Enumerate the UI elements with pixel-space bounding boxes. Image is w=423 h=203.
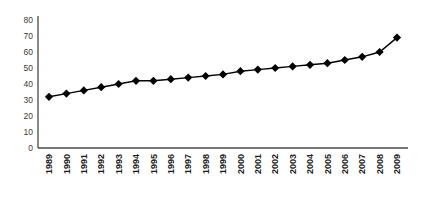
data-point-marker: [254, 66, 262, 74]
data-point-marker: [97, 83, 105, 91]
y-tick-label: 80: [24, 15, 34, 25]
series-markers: [45, 34, 401, 101]
x-tick-label: 2005: [323, 154, 333, 174]
data-point-marker: [62, 90, 70, 98]
y-tick-label: 20: [24, 111, 34, 121]
x-tick-label: 2007: [357, 154, 367, 174]
data-point-marker: [149, 77, 157, 85]
data-point-marker: [358, 53, 366, 61]
x-tick-label: 2000: [236, 154, 246, 174]
data-point-marker: [132, 77, 140, 85]
data-point-marker: [289, 62, 297, 70]
x-tick-label: 2004: [305, 154, 315, 174]
y-tick-label: 40: [24, 79, 34, 89]
x-tick-label: 2002: [270, 154, 280, 174]
x-tick-label: 1999: [218, 154, 228, 174]
x-tick-label: 2001: [253, 154, 263, 174]
data-point-marker: [323, 59, 331, 67]
data-point-marker: [271, 64, 279, 72]
y-tick-label: 10: [24, 127, 34, 137]
y-tick-label: 0: [28, 143, 33, 153]
x-tick-label: 2003: [288, 154, 298, 174]
chart-container: 01020304050607080 1989199019911992199319…: [0, 0, 423, 203]
data-point-marker: [306, 61, 314, 69]
x-tick-label: 1991: [79, 154, 89, 174]
x-tick-label: 1998: [201, 154, 211, 174]
data-point-marker: [236, 67, 244, 75]
data-point-marker: [341, 56, 349, 64]
line-chart: 01020304050607080 1989199019911992199319…: [0, 0, 423, 203]
data-point-marker: [115, 80, 123, 88]
x-tick-label: 1989: [44, 154, 54, 174]
x-tick-label: 2009: [392, 154, 402, 174]
x-tick-label: 1993: [114, 154, 124, 174]
x-tick-label: 1994: [131, 154, 141, 174]
y-tick-label: 70: [24, 31, 34, 41]
x-tick-label: 1990: [62, 154, 72, 174]
x-axis-tick-labels: 1989199019911992199319941995199619971998…: [44, 154, 402, 174]
x-tick-label: 1997: [183, 154, 193, 174]
x-tick-label: 1992: [96, 154, 106, 174]
y-axis-tick-labels: 01020304050607080: [24, 15, 34, 153]
data-point-marker: [80, 86, 88, 94]
y-tick-label: 50: [24, 63, 34, 73]
x-tick-label: 2006: [340, 154, 350, 174]
data-point-marker: [219, 70, 227, 78]
x-tick-label: 2008: [375, 154, 385, 174]
data-point-marker: [202, 72, 210, 80]
y-tick-label: 30: [24, 95, 34, 105]
x-tick-label: 1995: [149, 154, 159, 174]
data-point-marker: [167, 75, 175, 83]
data-point-marker: [45, 93, 53, 101]
chart-axes: [38, 16, 408, 148]
y-tick-label: 60: [24, 47, 34, 57]
data-point-marker: [184, 74, 192, 82]
x-tick-label: 1996: [166, 154, 176, 174]
